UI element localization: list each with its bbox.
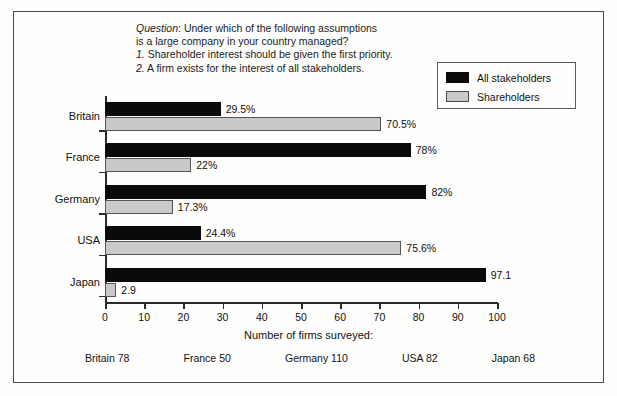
bar-group: 97.12.9 [105, 262, 497, 303]
x-axis-tick [144, 303, 146, 309]
question-line-1-text: Under which of the following assumptions [184, 22, 377, 34]
legend-item-all-stakeholders: All stakeholders [446, 69, 575, 86]
x-axis-tick [223, 303, 225, 309]
x-axis-tick-label: 70 [374, 311, 386, 323]
x-axis-tick-label: 80 [413, 311, 425, 323]
bar-usa-all-stakeholders [105, 226, 201, 240]
x-axis-tick-label: 10 [138, 311, 150, 323]
x-axis-tick-label: 40 [256, 311, 268, 323]
bar-group: 78%22% [105, 137, 497, 178]
chart-figure: Question: Under which of the following a… [0, 0, 617, 396]
x-axis-tick [262, 303, 264, 309]
firms-surveyed-row: Britain 78France 50Germany 110USA 82Japa… [85, 352, 535, 364]
firms-surveyed-item: Japan 68 [492, 352, 535, 364]
question-line-3-text: Shareholder interest should be given the… [148, 48, 393, 60]
x-axis-tick-label: 60 [334, 311, 346, 323]
bar-value-label: 75.6% [406, 241, 436, 255]
x-axis-tick-label: 50 [295, 311, 307, 323]
bar-france-shareholders [105, 158, 191, 172]
category-axis-labels: BritainFranceGermanyUSAJapan [5, 96, 100, 303]
x-axis-tick [105, 303, 107, 309]
question-num-2: 2. [136, 62, 145, 74]
bar-france-all-stakeholders [105, 143, 411, 157]
question-block: Question: Under which of the following a… [136, 22, 466, 75]
bar-value-label: 97.1 [491, 268, 511, 282]
x-axis-tick [419, 303, 421, 309]
firms-surveyed-item: Germany 110 [285, 352, 348, 364]
category-label-usa: USA [10, 234, 100, 246]
x-axis-tick [301, 303, 303, 309]
bar-value-label: 78% [416, 143, 437, 157]
question-num-1: 1. [136, 48, 145, 60]
bar-germany-shareholders [105, 200, 173, 214]
bar-value-label: 17.3% [178, 200, 208, 214]
question-line-4-text: A firm exists for the interest of all st… [147, 62, 364, 74]
x-axis-tick-label: 20 [178, 311, 190, 323]
firms-surveyed-item: Britain 78 [85, 352, 129, 364]
question-line-4: 2. A firm exists for the interest of all… [136, 62, 466, 75]
bar-value-label: 2.9 [121, 283, 136, 297]
x-axis-tick-label: 30 [217, 311, 229, 323]
x-axis-tick [497, 303, 499, 309]
bar-value-label: 24.4% [206, 226, 236, 240]
question-line-3: 1. Shareholder interest should be given … [136, 48, 466, 61]
x-axis-tick [340, 303, 342, 309]
firms-surveyed-item: USA 82 [402, 352, 438, 364]
plot-area: 29.5%70.5%78%22%82%17.3%24.4%75.6%97.12.… [105, 96, 497, 302]
bar-usa-shareholders [105, 241, 401, 255]
question-label: Question [136, 22, 178, 34]
bar-value-label: 82% [431, 185, 452, 199]
bar-value-label: 29.5% [226, 102, 256, 116]
value-axis-ticks: 0102030405060708090100 [105, 303, 498, 327]
bar-japan-shareholders [105, 283, 116, 297]
bar-value-label: 22% [196, 158, 217, 172]
bar-group: 24.4%75.6% [105, 220, 497, 261]
category-label-france: France [10, 151, 100, 163]
question-line-2-text: is a large company in your country manag… [136, 35, 348, 47]
x-axis-tick-label: 0 [102, 311, 108, 323]
firms-surveyed-item: France 50 [184, 352, 231, 364]
category-label-japan: Japan [10, 276, 100, 288]
x-axis-tick [379, 303, 381, 309]
axis-title: Number of firms surveyed: [13, 329, 604, 341]
category-label-britain: Britain [10, 110, 100, 122]
x-axis-tick-label: 90 [452, 311, 464, 323]
bar-value-label: 70.5% [386, 117, 416, 131]
x-axis-tick [458, 303, 460, 309]
bar-japan-all-stakeholders [105, 268, 486, 282]
bar-group: 82%17.3% [105, 179, 497, 220]
bar-germany-all-stakeholders [105, 185, 426, 199]
question-line-1: Question: Under which of the following a… [136, 22, 466, 35]
legend-swatch-icon-all-stakeholders [446, 72, 469, 83]
bar-group: 29.5%70.5% [105, 96, 497, 137]
legend-label-all-stakeholders: All stakeholders [477, 72, 551, 84]
x-axis-tick-label: 100 [488, 311, 506, 323]
category-label-germany: Germany [10, 193, 100, 205]
bar-britain-shareholders [105, 117, 381, 131]
bar-britain-all-stakeholders [105, 102, 221, 116]
x-axis-tick [183, 303, 185, 309]
question-line-2: is a large company in your country manag… [136, 35, 466, 48]
